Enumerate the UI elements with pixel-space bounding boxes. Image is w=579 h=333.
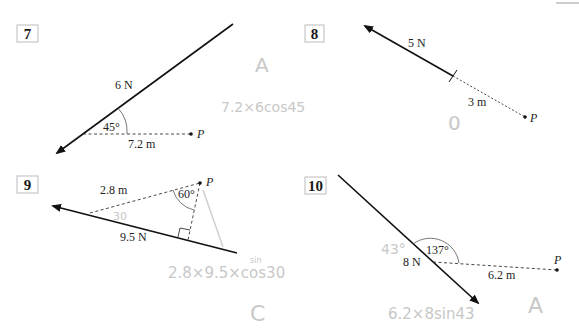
handwritten-working: 7.2×6cos45 [221,99,305,115]
point-p-dot [189,132,193,136]
handwritten-answer: C [250,301,265,326]
right-angle-mark [178,228,190,237]
force-arrow [365,26,453,76]
distance-label: 2.8 m [100,183,128,197]
handwritten-angle: 30 [113,210,127,223]
handwritten-working: 6.2×8sin43 [388,305,475,323]
force-label: 8 N [403,255,421,269]
question-number: 7 [24,26,32,42]
question-number: 10 [308,178,323,194]
diagrams-canvas: 7 6 N 45° 7.2 m P A 7.2×6cos45 8 5 N 3 m… [0,0,579,333]
angle-label: 137° [426,243,449,257]
question-number: 8 [311,26,319,42]
point-label: P [553,253,562,267]
force-arrow [338,175,478,303]
question-10: 10 137° 8 N 6.2 m P 43° 6.2×8sin43 A [305,175,562,323]
point-label: P [196,127,205,141]
handwritten-answer: A [528,293,543,318]
force-label: 6 N [115,78,133,92]
angle-label: 45° [103,120,120,134]
point-label: P [529,111,538,125]
handwritten-answer: A [255,53,269,77]
handwritten-arrow [203,190,223,247]
point-label: P [205,175,214,189]
handwritten-working: 2.8×9.5×cos30 [168,264,285,282]
tick-mark [449,70,457,82]
distance-line [453,76,525,117]
point-p-dot [523,115,527,119]
handwritten-angle: 43° [381,241,406,257]
question-7: 7 6 N 45° 7.2 m P A 7.2×6cos45 [17,24,305,153]
question-8: 8 5 N 3 m P 0 [305,25,538,135]
question-9: 9 2.8 m 60° 9.5 N P 30 sin 2.8×9.5×cos30… [17,175,285,326]
force-label: 9.5 N [120,230,147,244]
angle-label: 60° [178,187,195,201]
point-p-dot [198,181,202,185]
distance-label: 3 m [468,95,487,109]
point-p-dot [555,268,559,272]
question-number: 9 [24,177,32,193]
distance-label: 7.2 m [128,137,156,151]
moments-worksheet: 7 6 N 45° 7.2 m P A 7.2×6cos45 8 5 N 3 m… [0,0,579,333]
distance-label: 6.2 m [488,268,516,282]
force-label: 5 N [408,36,426,50]
handwritten-answer: 0 [448,111,461,135]
